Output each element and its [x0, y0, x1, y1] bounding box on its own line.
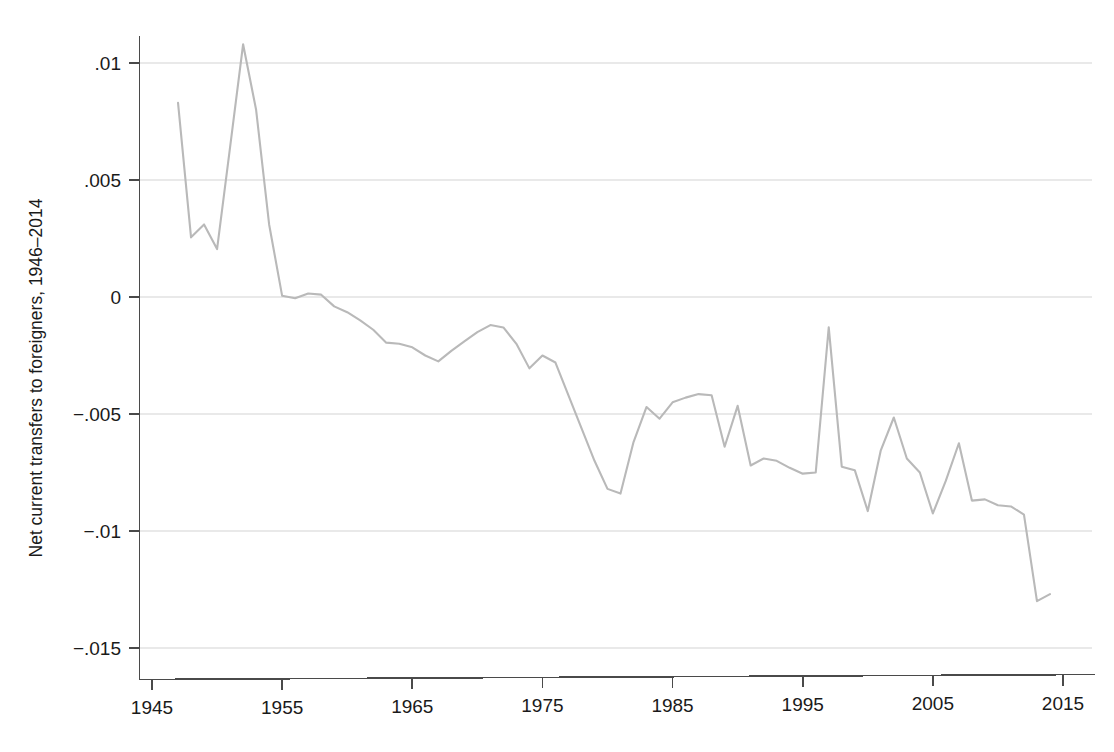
- x-tick-label: 1955: [261, 697, 303, 718]
- y-tick-label: −.015: [73, 638, 121, 659]
- line-chart-svg: .01.0050−.005−.01−.015 19451955196519751…: [0, 0, 1114, 752]
- x-tick-label: 1965: [391, 696, 433, 717]
- x-tick-label: 1985: [651, 695, 693, 716]
- x-tick-label: 2005: [912, 693, 954, 714]
- chart-background: [0, 0, 1114, 752]
- y-tick-label: −.005: [73, 404, 121, 425]
- chart-figure: .01.0050−.005−.01−.015 19451955196519751…: [0, 0, 1114, 752]
- y-tick-label: .01: [95, 53, 121, 74]
- x-tick-label: 1975: [521, 695, 563, 716]
- y-tick-label: .005: [84, 170, 121, 191]
- x-tick-label: 1995: [782, 694, 824, 715]
- y-tick-label: 0: [110, 287, 121, 308]
- y-tick-label: −.01: [83, 521, 121, 542]
- x-tick-label: 1945: [131, 697, 173, 718]
- x-tick-label: 2015: [1042, 693, 1084, 714]
- y-axis-title: Net current transfers to foreigners, 194…: [26, 198, 46, 557]
